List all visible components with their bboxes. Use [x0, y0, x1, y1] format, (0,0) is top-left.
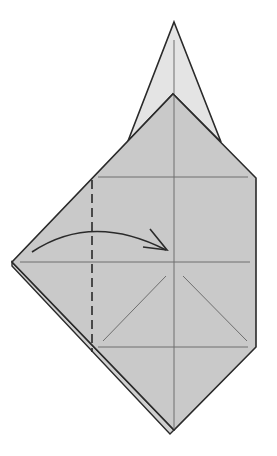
origami-diagram	[0, 0, 277, 456]
diagram-canvas	[0, 0, 277, 456]
